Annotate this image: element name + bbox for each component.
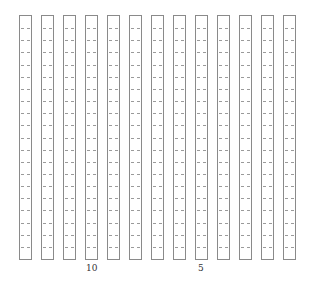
row-divider bbox=[43, 125, 52, 126]
row-divider bbox=[131, 113, 140, 114]
row-divider bbox=[109, 52, 118, 53]
row-divider bbox=[153, 125, 162, 126]
row-divider bbox=[241, 113, 250, 114]
row-divider bbox=[219, 40, 228, 41]
grid-column bbox=[41, 15, 54, 260]
row-divider bbox=[153, 223, 162, 224]
row-divider bbox=[241, 235, 250, 236]
row-divider bbox=[153, 65, 162, 66]
label-5: 5 bbox=[198, 263, 204, 273]
row-divider bbox=[131, 186, 140, 187]
row-divider bbox=[21, 138, 30, 139]
row-divider bbox=[87, 125, 96, 126]
row-divider bbox=[109, 223, 118, 224]
row-divider bbox=[219, 101, 228, 102]
row-divider bbox=[87, 186, 96, 187]
row-divider bbox=[87, 28, 96, 29]
row-divider bbox=[263, 186, 272, 187]
row-divider bbox=[285, 162, 294, 163]
row-divider bbox=[285, 247, 294, 248]
row-divider bbox=[197, 28, 206, 29]
row-divider bbox=[197, 198, 206, 199]
row-divider bbox=[43, 210, 52, 211]
row-divider bbox=[153, 52, 162, 53]
row-divider bbox=[87, 198, 96, 199]
row-divider bbox=[241, 198, 250, 199]
row-divider bbox=[153, 186, 162, 187]
row-divider bbox=[21, 113, 30, 114]
row-divider bbox=[197, 52, 206, 53]
row-divider bbox=[109, 77, 118, 78]
row-divider bbox=[153, 28, 162, 29]
row-divider bbox=[131, 77, 140, 78]
row-divider bbox=[65, 28, 74, 29]
row-divider bbox=[87, 40, 96, 41]
row-divider bbox=[153, 89, 162, 90]
row-divider bbox=[109, 174, 118, 175]
row-divider bbox=[65, 89, 74, 90]
row-divider bbox=[197, 138, 206, 139]
row-divider bbox=[263, 210, 272, 211]
row-divider bbox=[109, 65, 118, 66]
row-divider bbox=[285, 186, 294, 187]
row-divider bbox=[241, 138, 250, 139]
row-divider bbox=[131, 138, 140, 139]
row-divider bbox=[65, 198, 74, 199]
row-divider bbox=[285, 174, 294, 175]
row-divider bbox=[263, 198, 272, 199]
row-divider bbox=[219, 174, 228, 175]
row-divider bbox=[175, 198, 184, 199]
row-divider bbox=[175, 65, 184, 66]
row-divider bbox=[43, 65, 52, 66]
row-divider bbox=[109, 247, 118, 248]
row-divider bbox=[21, 150, 30, 151]
row-divider bbox=[197, 210, 206, 211]
row-divider bbox=[43, 150, 52, 151]
row-divider bbox=[175, 113, 184, 114]
row-divider bbox=[263, 52, 272, 53]
row-divider bbox=[131, 40, 140, 41]
row-divider bbox=[197, 150, 206, 151]
row-divider bbox=[131, 125, 140, 126]
row-divider bbox=[241, 28, 250, 29]
row-divider bbox=[241, 223, 250, 224]
row-divider bbox=[131, 101, 140, 102]
row-divider bbox=[21, 186, 30, 187]
row-divider bbox=[65, 77, 74, 78]
row-divider bbox=[109, 198, 118, 199]
grid-column bbox=[19, 15, 32, 260]
row-divider bbox=[285, 52, 294, 53]
row-divider bbox=[219, 89, 228, 90]
row-divider bbox=[263, 138, 272, 139]
row-divider bbox=[285, 235, 294, 236]
row-divider bbox=[197, 186, 206, 187]
row-divider bbox=[131, 210, 140, 211]
row-divider bbox=[175, 52, 184, 53]
row-divider bbox=[131, 247, 140, 248]
row-divider bbox=[87, 235, 96, 236]
row-divider bbox=[219, 28, 228, 29]
row-divider bbox=[21, 77, 30, 78]
row-divider bbox=[175, 223, 184, 224]
row-divider bbox=[285, 40, 294, 41]
row-divider bbox=[175, 40, 184, 41]
row-divider bbox=[21, 210, 30, 211]
row-divider bbox=[87, 89, 96, 90]
row-divider bbox=[175, 28, 184, 29]
row-divider bbox=[87, 65, 96, 66]
row-divider bbox=[43, 52, 52, 53]
row-divider bbox=[219, 186, 228, 187]
row-divider bbox=[65, 223, 74, 224]
grid-column bbox=[239, 15, 252, 260]
row-divider bbox=[263, 174, 272, 175]
row-divider bbox=[21, 247, 30, 248]
row-divider bbox=[285, 198, 294, 199]
row-divider bbox=[197, 162, 206, 163]
row-divider bbox=[153, 77, 162, 78]
row-divider bbox=[285, 77, 294, 78]
row-divider bbox=[87, 77, 96, 78]
row-divider bbox=[65, 174, 74, 175]
row-divider bbox=[219, 210, 228, 211]
row-divider bbox=[175, 89, 184, 90]
row-divider bbox=[43, 101, 52, 102]
